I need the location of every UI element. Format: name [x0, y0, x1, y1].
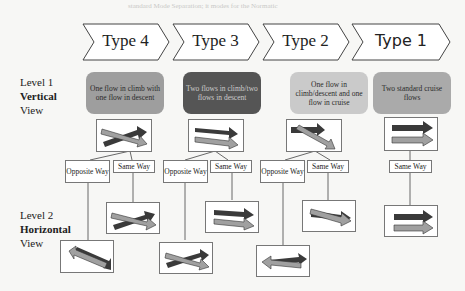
level-2-title: Level 2	[20, 208, 71, 222]
type-2-same-way: Same Way	[307, 160, 349, 173]
crossing-arrows-icon	[97, 120, 153, 153]
chevron-type-3: Type 3	[172, 23, 259, 61]
parallel-sloped-arrows-icon	[189, 120, 245, 153]
level-1-title: Level 1	[20, 75, 57, 89]
converging-arrows-icon	[303, 201, 357, 233]
level-2-horizontal: Horizontal	[20, 223, 71, 235]
type-1-vertical-diagram	[384, 117, 438, 151]
chevron-type-2: Type 2	[262, 23, 349, 61]
type-4-same-way-horizontal	[106, 202, 160, 234]
type-4-same-way: Same Way	[113, 160, 155, 173]
crossing-arrows-icon	[107, 203, 161, 235]
type-1-description: Two standard cruise flows	[373, 72, 451, 114]
type-1-label: Type 1	[351, 31, 451, 50]
type-3-opposite-way: Opposite Way	[163, 160, 208, 183]
type-3-same-way-horizontal	[205, 201, 259, 233]
type-4-vertical-diagram	[96, 119, 152, 152]
type-2-label: Type 2	[262, 31, 349, 51]
parallel-cruise-arrows-icon	[385, 206, 439, 238]
type-3-same-way: Same Way	[210, 160, 252, 173]
type-2-description: One flow in climb/descent and one flow i…	[290, 72, 368, 114]
type-1-same-way-horizontal	[384, 205, 438, 237]
type-1-same-way: Same Way	[389, 160, 432, 173]
type-3-opposite-way-horizontal	[159, 242, 213, 274]
type-2-same-way-horizontal	[302, 200, 356, 232]
type-4-opposite-way-horizontal	[60, 240, 114, 273]
crossing-opposing-arrows-icon	[160, 243, 214, 275]
type-2-opposite-way-horizontal	[256, 245, 310, 277]
level-1-label: Level 1 Vertical View	[20, 75, 57, 117]
type-2-opposite-way: Opposite Way	[260, 160, 305, 183]
level-1-vertical: Vertical	[20, 90, 57, 102]
type-3-vertical-diagram	[188, 119, 244, 152]
level-1-view: View	[20, 103, 57, 117]
chevron-type-1: Type 1	[351, 23, 451, 61]
opposing-arrows-icon	[257, 246, 311, 278]
background-bleed-text: standard Mode Separation; it modes for t…	[128, 2, 278, 10]
chevron-type-4: Type 4	[82, 23, 169, 61]
opposing-arrows-icon	[61, 241, 115, 274]
type-4-description: One flow in climb with one flow in desce…	[86, 72, 164, 114]
parallel-arrows-icon	[206, 202, 260, 234]
type-4-opposite-way: Opposite Way	[65, 160, 110, 183]
cruise-and-descent-arrows-icon	[287, 120, 343, 153]
type-2-vertical-diagram	[286, 119, 342, 152]
type-3-label: Type 3	[172, 31, 259, 51]
type-4-label: Type 4	[82, 31, 169, 51]
parallel-cruise-arrows-icon	[385, 118, 439, 152]
type-3-description: Two flows in climb/two flows in descent	[183, 72, 261, 114]
